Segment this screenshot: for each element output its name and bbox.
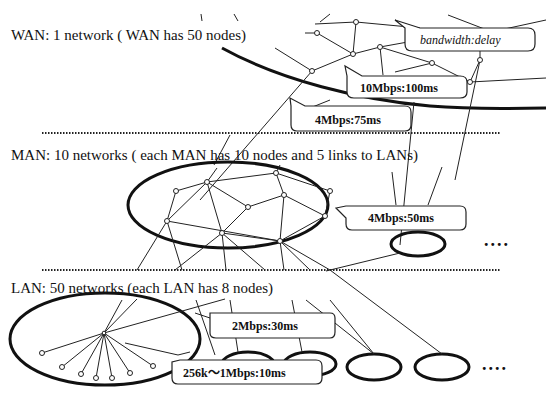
wan-tier-label: WAN: 1 network ( WAN has 50 nodes) <box>11 27 246 44</box>
legend-text: bandwidth:delay <box>420 33 501 47</box>
lan-more-indicator: .... <box>482 354 508 374</box>
man-to-lan-label: 2Mbps:30ms <box>232 319 298 333</box>
lan-boundary-4 <box>347 354 401 380</box>
network-hierarchy-diagram: WAN: 1 network ( WAN has 50 nodes) <box>0 0 546 393</box>
man-side-ellipse <box>391 232 445 256</box>
man-tier-label: MAN: 10 networks ( each MAN has 10 nodes… <box>11 147 418 164</box>
callout-man-internal: 4Mbps:50ms <box>336 206 466 230</box>
lan-internal-label: 256k〜1Mbps:10ms <box>183 366 286 380</box>
callout-man-to-lan: 2Mbps:30ms <box>210 313 335 338</box>
man-internal-label: 4Mbps:50ms <box>368 211 434 225</box>
lan-boundary-5 <box>415 354 469 380</box>
man-more-indicator: .... <box>484 230 510 250</box>
callout-lan-internal: 256k〜1Mbps:10ms <box>172 360 322 384</box>
wan-to-man-label: 4Mbps:75ms <box>315 113 381 127</box>
callout-legend: bandwidth:delay <box>395 20 535 51</box>
lan-tier-label: LAN: 50 networks (each LAN has 8 nodes) <box>11 280 273 297</box>
wan-internal-label: 10Mbps:100ms <box>360 81 438 95</box>
